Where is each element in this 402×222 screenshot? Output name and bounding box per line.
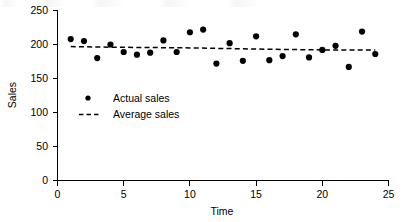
data-point xyxy=(107,41,113,47)
data-point xyxy=(359,28,365,34)
data-point xyxy=(346,64,352,70)
legend-label-average-sales: Average sales xyxy=(113,108,179,120)
x-tick-label-5: 5 xyxy=(121,188,127,200)
y-tick-label-50: 50 xyxy=(36,140,48,152)
data-point xyxy=(332,43,338,49)
data-point xyxy=(187,29,193,35)
data-point xyxy=(160,37,166,43)
data-point xyxy=(81,38,87,44)
data-point xyxy=(213,60,219,66)
legend-marker-actual-sales-icon xyxy=(85,95,90,100)
data-point xyxy=(227,40,233,46)
x-axis-title: Time xyxy=(211,205,234,217)
x-axis-ticks xyxy=(58,181,389,187)
data-point xyxy=(174,49,180,55)
chart-canvas: 250 200 150 100 50 0 0 5 10 15 20 25 Tim… xyxy=(0,0,402,222)
scatter-chart: 250 200 150 100 50 0 0 5 10 15 20 25 Tim… xyxy=(0,0,402,222)
x-axis-tick-labels: 0 5 10 15 20 25 xyxy=(55,188,395,200)
data-point xyxy=(266,57,272,63)
y-tick-label-200: 200 xyxy=(30,38,48,50)
y-tick-label-100: 100 xyxy=(30,106,48,118)
legend-label-actual-sales: Actual sales xyxy=(113,92,170,104)
x-tick-label-20: 20 xyxy=(316,188,328,200)
data-point xyxy=(306,54,312,60)
data-point xyxy=(372,51,378,57)
chart-legend: Actual sales Average sales xyxy=(79,92,179,120)
y-axis-title: Sales xyxy=(6,82,18,108)
x-tick-label-25: 25 xyxy=(383,188,395,200)
x-tick-label-10: 10 xyxy=(184,188,196,200)
data-point xyxy=(94,55,100,61)
average-sales-line xyxy=(71,47,376,50)
data-point xyxy=(121,49,127,55)
data-point xyxy=(147,50,153,56)
data-point xyxy=(68,36,74,42)
y-tick-label-150: 150 xyxy=(30,72,48,84)
y-tick-label-0: 0 xyxy=(42,174,48,186)
data-point xyxy=(253,33,259,39)
data-point xyxy=(200,26,206,32)
data-point xyxy=(134,52,140,58)
y-axis-ticks xyxy=(53,11,58,181)
x-tick-label-0: 0 xyxy=(55,188,61,200)
data-point xyxy=(279,53,285,59)
y-axis-tick-labels: 250 200 150 100 50 0 xyxy=(30,4,48,186)
data-point xyxy=(240,58,246,64)
y-tick-label-250: 250 xyxy=(30,4,48,16)
data-point xyxy=(319,47,325,53)
x-tick-label-15: 15 xyxy=(250,188,262,200)
data-point xyxy=(293,31,299,37)
